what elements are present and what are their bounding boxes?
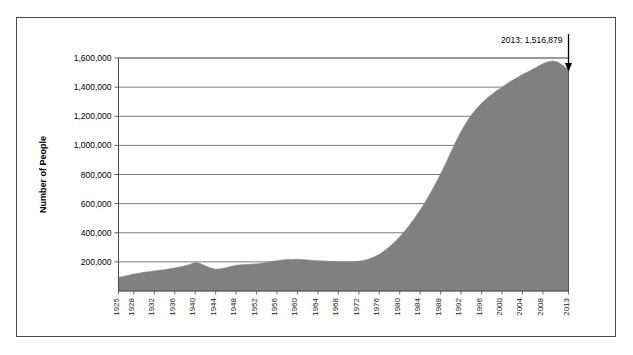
x-tick-label: 1936 xyxy=(168,297,177,315)
x-tick-label: 1976 xyxy=(372,297,381,315)
area-series-group xyxy=(119,61,569,291)
y-tick-label: 1,200,000 xyxy=(74,111,112,121)
x-tick-label: 1980 xyxy=(393,297,402,315)
area-series xyxy=(119,61,569,291)
x-tick-label: 2008 xyxy=(536,297,545,315)
x-tick-label: 1984 xyxy=(413,297,422,315)
x-tick-label: 1944 xyxy=(209,297,218,315)
x-tick-label: 1948 xyxy=(229,297,238,315)
x-tick-label: 2013 xyxy=(562,297,571,315)
y-axis-title-group: Number of People xyxy=(38,136,48,213)
chart-svg: 200,000400,000600,000800,0001,000,0001,2… xyxy=(0,0,633,355)
x-tick-label: 1925 xyxy=(112,297,121,315)
x-tick-label: 2004 xyxy=(515,297,524,315)
x-tick-label: 1964 xyxy=(311,297,320,315)
x-tick-label: 1956 xyxy=(270,297,279,315)
y-tick-label: 1,600,000 xyxy=(74,53,112,63)
x-tick-label: 1988 xyxy=(434,297,443,315)
x-tick-marks xyxy=(119,291,569,295)
x-tick-label: 1992 xyxy=(454,297,463,315)
x-tick-label: 1972 xyxy=(352,297,361,315)
y-tick-label: 1,400,000 xyxy=(74,82,112,92)
y-tick-label: 600,000 xyxy=(81,199,112,209)
y-tick-label: 1,000,000 xyxy=(74,140,112,150)
x-tick-label: 2000 xyxy=(495,297,504,315)
y-tick-label: 400,000 xyxy=(81,228,112,238)
x-tick-labels: 1925192819321936194019441948195219561960… xyxy=(112,297,571,315)
area-chart: 200,000400,000600,000800,0001,000,0001,2… xyxy=(0,0,633,355)
x-tick-label: 1960 xyxy=(290,297,299,315)
x-tick-label: 1968 xyxy=(331,297,340,315)
y-tick-label: 800,000 xyxy=(81,170,112,180)
x-tick-label: 1996 xyxy=(475,297,484,315)
y-tick-marks xyxy=(115,58,119,262)
x-tick-label: 1940 xyxy=(188,297,197,315)
x-tick-label: 1952 xyxy=(250,297,259,315)
y-tick-label: 200,000 xyxy=(81,257,112,267)
y-axis-title: Number of People xyxy=(38,136,48,213)
x-tick-label: 1928 xyxy=(127,297,136,315)
x-tick-label: 1932 xyxy=(147,297,156,315)
annotation-label: 2013: 1,516,879 xyxy=(501,35,563,45)
y-tick-labels: 200,000400,000600,000800,0001,000,0001,2… xyxy=(74,53,112,267)
